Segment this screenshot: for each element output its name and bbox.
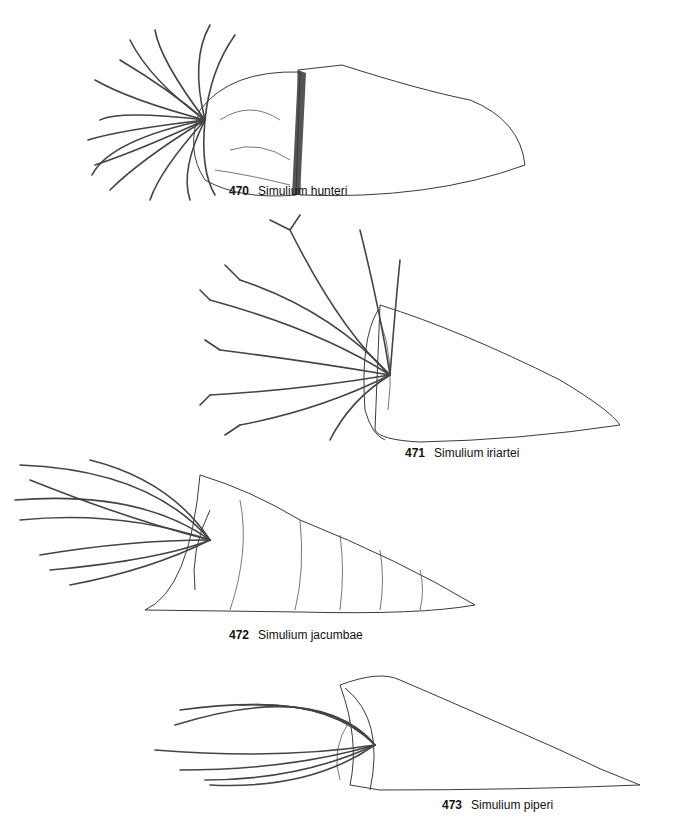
species-name: Simulium piperi [471, 798, 553, 812]
figure-caption: 472Simulium jacumbae [229, 628, 363, 642]
figure-470-simulium-hunteri: 470Simulium hunteri [0, 0, 683, 210]
figure-caption: 473Simulium piperi [442, 798, 553, 812]
figure-caption: 470Simulium hunteri [229, 184, 347, 198]
figure-number: 472 [229, 628, 249, 642]
figure-number: 470 [229, 184, 249, 198]
species-name: Simulium hunteri [258, 184, 347, 198]
figure-473-simulium-piperi: 473Simulium piperi [0, 660, 683, 838]
pupa-illustration-473 [0, 660, 683, 838]
figure-number: 471 [405, 446, 425, 460]
figure-472-simulium-jacumbae: 472Simulium jacumbae [0, 460, 683, 650]
figure-caption: 471Simulium iriartei [405, 446, 519, 460]
figure-471-simulium-iriartei: 471Simulium iriartei [0, 210, 683, 460]
pupa-illustration-470 [0, 0, 683, 210]
figure-number: 473 [442, 798, 462, 812]
species-name: Simulium jacumbae [258, 628, 363, 642]
species-name: Simulium iriartei [434, 446, 519, 460]
pupa-illustration-471 [0, 210, 683, 460]
pupa-illustration-472 [0, 460, 683, 650]
